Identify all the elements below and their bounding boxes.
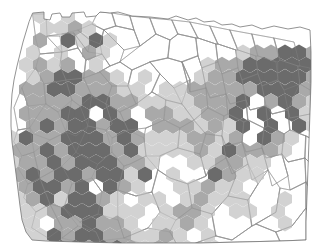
hexbin-density-map-figure: [0, 0, 324, 252]
hexbin-map-canvas: [0, 0, 324, 252]
